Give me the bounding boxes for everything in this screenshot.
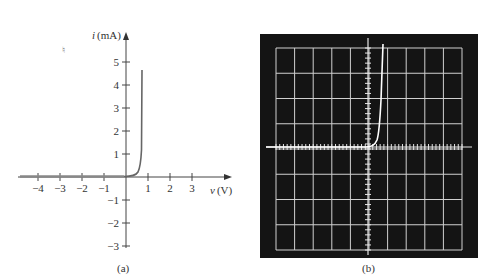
caption-b: (b): [362, 262, 375, 275]
y-tick-label: −1: [107, 194, 119, 206]
x-tick-label: −1: [98, 182, 110, 194]
y-tick-label: 2: [114, 125, 120, 137]
stray-mark: ♮: [62, 45, 65, 55]
x-tick-label: −3: [54, 182, 66, 194]
y-tick-label: 4: [114, 79, 120, 91]
diode-curve: [124, 70, 142, 177]
x-tick-label: −4: [32, 182, 44, 194]
figure: −4−3−2−1123 54321−1−2−3 i(mA) v(V) ♮ (a)…: [0, 0, 490, 279]
y-tick-label: −3: [107, 240, 119, 252]
y-tick-label: 5: [114, 56, 120, 68]
y-tick-label: −2: [107, 217, 119, 229]
panel-b-oscilloscope: (b): [260, 34, 478, 275]
y-axis-label: i(mA): [92, 29, 121, 42]
y-tick-label: 3: [114, 102, 120, 114]
caption-a: (a): [117, 262, 130, 275]
panel-a-chart: −4−3−2−1123 54321−1−2−3 i(mA) v(V) ♮ (a): [18, 29, 232, 275]
y-tick-label: 1: [114, 148, 120, 160]
x-axis-arrow-icon: [224, 174, 232, 180]
x-tick-label: 2: [167, 182, 173, 194]
y-axis-arrow-icon: [123, 32, 129, 40]
x-tick-label: 3: [189, 182, 195, 194]
x-tick-label: 1: [145, 182, 151, 194]
y-ticks: 54321−1−2−3: [107, 56, 130, 252]
x-axis-label: v(V): [210, 184, 232, 197]
x-tick-label: −2: [76, 182, 88, 194]
